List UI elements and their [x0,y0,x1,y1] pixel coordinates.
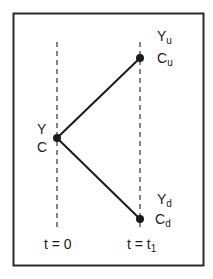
up-label-y-base: Y [157,28,166,44]
node-root [53,134,61,142]
time-label-t1-base: t = t [127,236,151,252]
node-down [136,215,144,223]
time-label-t0: t = 0 [44,237,72,251]
down-label-y-sub: d [166,198,172,209]
up-label-c-base: C [157,50,167,66]
down-label-y: Yd [157,192,172,206]
tree-diagram [0,0,213,279]
up-label-c-sub: u [167,57,173,68]
root-label-c: C [37,140,47,154]
edge-up [57,58,140,138]
down-label-c-sub: d [165,218,171,229]
down-label-c: Cd [155,212,171,226]
up-label-y: Yu [157,29,172,43]
up-label-c: Cu [157,51,173,65]
root-label-y: Y [37,122,46,136]
edge-down [57,138,140,219]
time-label-t1: t = t1 [127,237,156,251]
down-label-c-base: C [155,211,165,227]
up-label-y-sub: u [166,35,172,46]
node-up [136,54,144,62]
time-label-t1-sub: 1 [151,243,157,254]
down-label-y-base: Y [157,191,166,207]
